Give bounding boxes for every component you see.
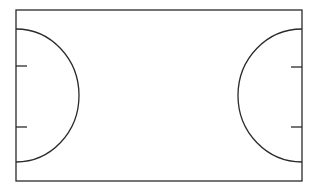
left-goal-area-arc <box>16 29 79 162</box>
right-goal-area-arc <box>238 29 302 162</box>
court-boundary <box>16 10 302 181</box>
court-diagram <box>0 0 312 189</box>
